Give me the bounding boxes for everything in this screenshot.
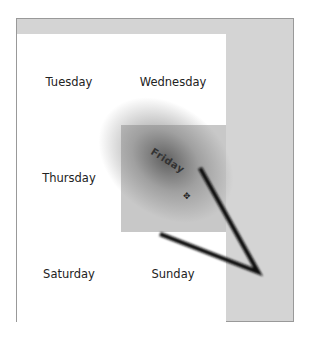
calendar-frame: Tuesday Wednesday Thursday Saturday Sund… (16, 18, 294, 322)
day-cell-saturday[interactable]: Saturday (17, 226, 121, 322)
move-cursor-icon: ✥ (183, 191, 191, 201)
day-label: Thursday (42, 171, 95, 185)
day-label: Sunday (151, 267, 194, 281)
day-cell-friday-dragging[interactable]: Friday ✥ (121, 125, 226, 232)
day-label: Saturday (43, 267, 95, 281)
day-label: Tuesday (46, 75, 93, 89)
day-label: Wednesday (140, 75, 207, 89)
day-cell-sunday[interactable]: Sunday (121, 226, 225, 322)
